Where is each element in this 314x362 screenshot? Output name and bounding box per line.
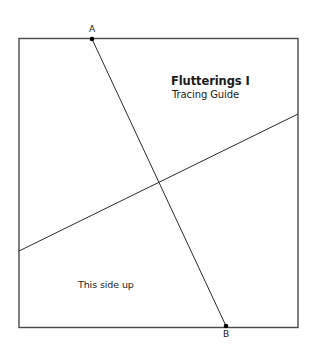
orientation-note: This side up: [78, 280, 134, 290]
diagonal-line: [19, 114, 298, 251]
diagram-subtitle: Tracing Guide: [172, 90, 239, 100]
tracing-guide-diagram: [0, 0, 314, 362]
point-a-label: A: [89, 25, 95, 34]
point-b-label: B: [223, 330, 229, 339]
point-a-marker: [90, 37, 95, 42]
diagram-title: Flutterings I: [171, 76, 250, 88]
point-b-marker: [224, 324, 229, 329]
